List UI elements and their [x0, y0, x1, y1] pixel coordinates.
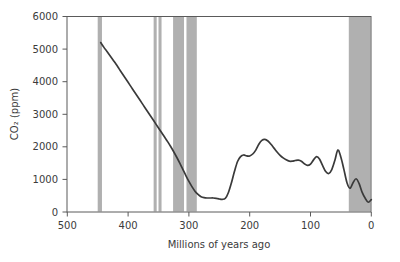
- x-tick-label: 200: [240, 220, 259, 231]
- x-tick-labels: 500 400 300 200 100 0: [58, 220, 375, 231]
- x-axis-ticks: [67, 212, 371, 217]
- shaded-band: [349, 17, 371, 212]
- y-axis-ticks: [63, 17, 68, 213]
- y-tick-label: 4000: [33, 76, 58, 87]
- co2-curve: [101, 43, 372, 203]
- y-tick-label: 2000: [33, 141, 58, 152]
- x-tick-label: 0: [368, 220, 374, 231]
- y-tick-label: 6000: [33, 11, 58, 22]
- x-tick-label: 400: [119, 220, 138, 231]
- chart-canvas: 0 1000 2000 3000 4000 5000 6000 500 400 …: [0, 0, 400, 262]
- y-tick-label: 3000: [33, 109, 58, 120]
- shaded-band: [98, 17, 102, 212]
- x-axis-title: Millions of years ago: [168, 239, 271, 250]
- y-axis-title: CO₂ (ppm): [9, 88, 20, 140]
- y-tick-label: 5000: [33, 44, 58, 55]
- shaded-bands-group: [98, 17, 371, 212]
- x-tick-label: 500: [58, 220, 77, 231]
- y-tick-label: 0: [52, 207, 58, 218]
- y-tick-label: 1000: [33, 174, 58, 185]
- y-tick-labels: 0 1000 2000 3000 4000 5000 6000: [33, 11, 58, 218]
- shaded-band: [154, 17, 157, 212]
- shaded-band: [173, 17, 184, 212]
- x-tick-label: 300: [179, 220, 198, 231]
- shaded-band: [186, 17, 196, 212]
- shaded-band: [159, 17, 162, 212]
- x-tick-label: 100: [301, 220, 320, 231]
- co2-history-chart: 0 1000 2000 3000 4000 5000 6000 500 400 …: [0, 0, 400, 262]
- plot-frame: [67, 17, 371, 213]
